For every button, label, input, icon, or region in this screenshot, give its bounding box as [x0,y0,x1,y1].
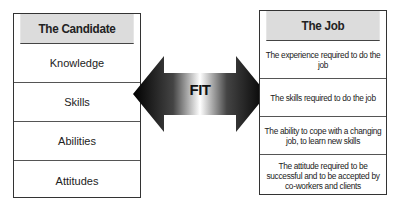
candidate-header: The Candidate [20,14,133,44]
candidate-item-knowledge: Knowledge [14,44,140,83]
job-item-ability: The ability to cope with a changing job,… [260,117,386,155]
job-item-attitude: The attitude required to be successful a… [260,155,386,197]
candidate-item-abilities: Abilities [14,122,140,161]
candidate-table: The Candidate Knowledge Skills Abilities… [13,13,141,198]
job-item-skills: The skills required to do the job [260,79,386,117]
job-table: The Job The experience required to do th… [259,10,387,195]
fit-label: FIT [183,81,217,98]
candidate-item-skills: Skills [14,83,140,122]
job-header: The Job [266,11,379,41]
job-item-experience: The experience required to do the job [260,41,386,79]
candidate-item-attitudes: Attitudes [14,161,140,200]
